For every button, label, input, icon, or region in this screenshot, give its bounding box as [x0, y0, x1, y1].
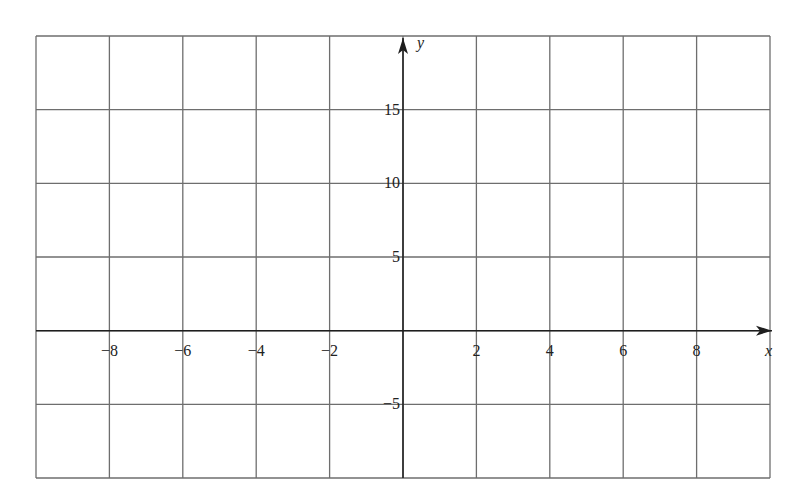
tick-labels: −8−6−4−2246815105−5xy: [101, 34, 772, 412]
x-tick-label: −2: [321, 342, 338, 359]
x-tick-label: −8: [101, 342, 118, 359]
y-tick-label: 10: [384, 174, 400, 191]
y-axis-label: y: [415, 34, 425, 52]
x-axis-label: x: [764, 342, 772, 359]
axes: [36, 38, 772, 478]
x-tick-label: 6: [619, 342, 627, 359]
y-tick-label: −5: [383, 395, 400, 412]
x-tick-label: −6: [174, 342, 191, 359]
x-tick-label: 4: [546, 342, 554, 359]
x-tick-label: 2: [472, 342, 480, 359]
x-tick-label: 8: [693, 342, 701, 359]
y-tick-label: 5: [392, 248, 400, 265]
x-tick-label: −4: [248, 342, 265, 359]
coordinate-grid: −8−6−4−2246815105−5xy: [0, 0, 794, 504]
y-tick-label: 15: [384, 101, 400, 118]
